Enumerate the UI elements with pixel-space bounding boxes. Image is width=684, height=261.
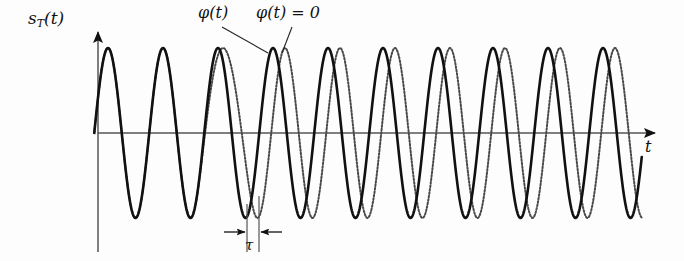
phi-modulated-label: φ(t) bbox=[198, 5, 228, 21]
phase-modulation-figure: sT(t) t φ(t) φ(t) = 0 τ bbox=[0, 0, 684, 261]
y-axis-label: sT(t) bbox=[28, 10, 64, 29]
phi-leader-line-1 bbox=[222, 27, 268, 53]
waveform-plot bbox=[0, 0, 684, 261]
x-axis-label: t bbox=[645, 139, 651, 155]
tau-label: τ bbox=[245, 238, 253, 253]
phi-zero-label: φ(t) = 0 bbox=[256, 5, 320, 21]
